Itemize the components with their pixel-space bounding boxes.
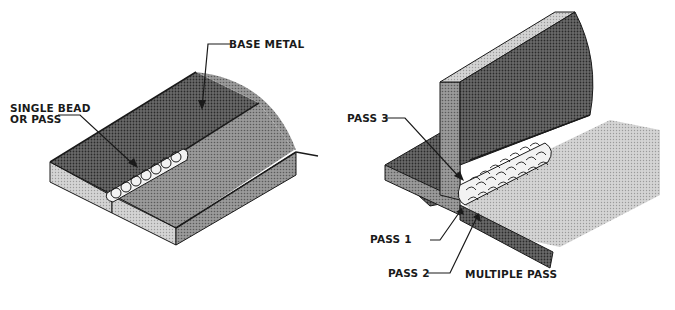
pass3-label: PASS 3 bbox=[347, 113, 389, 124]
pass1-leader bbox=[430, 210, 461, 240]
pass1-label: PASS 1 bbox=[370, 234, 412, 245]
single-pass-figure bbox=[50, 44, 318, 245]
vertical-plate-edge bbox=[440, 82, 460, 200]
multiple-pass-figure bbox=[383, 12, 660, 273]
weld-diagram bbox=[0, 0, 675, 310]
single-bead-label-line2: OR PASS bbox=[10, 114, 62, 125]
base-metal-label: BASE METAL bbox=[229, 39, 304, 50]
multiple-pass-caption: MULTIPLE PASS bbox=[465, 269, 557, 280]
pass2-label: PASS 2 bbox=[388, 268, 430, 279]
